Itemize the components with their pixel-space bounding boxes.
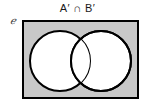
universal-set-symbol-label: ℯ — [10, 16, 16, 26]
venn-diagram-figure: A′ ∩ B′ ℯ — [0, 0, 155, 108]
venn-diagram-canvas — [0, 0, 155, 108]
set-b-fill-helper — [71, 31, 131, 91]
